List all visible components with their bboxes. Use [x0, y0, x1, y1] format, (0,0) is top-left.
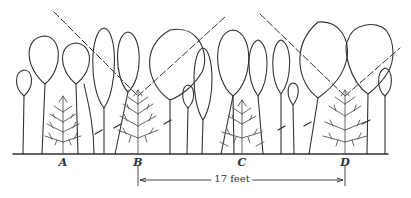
label-c: C [238, 157, 247, 168]
dimension-label: 17 feet [211, 174, 252, 184]
label-a: A [59, 157, 68, 168]
label-b: B [133, 157, 142, 168]
sapling-B [118, 90, 158, 154]
label-d: D [340, 157, 350, 168]
sapling-D [323, 90, 367, 154]
gap-markers [95, 120, 370, 134]
light-cone-lines [54, 12, 400, 96]
sapling-A [45, 96, 81, 154]
